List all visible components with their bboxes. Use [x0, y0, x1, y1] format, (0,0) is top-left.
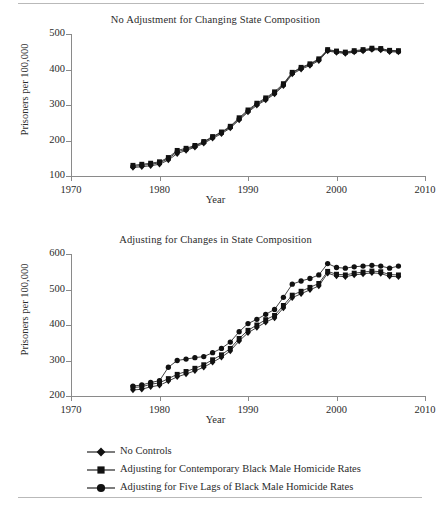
panel-1-y-tick-label: 100 — [19, 169, 65, 180]
series-line-circle — [133, 49, 399, 167]
circle-marker — [316, 272, 321, 277]
diamond-marker — [86, 443, 116, 461]
series-markers-square — [130, 269, 400, 390]
circle-marker — [396, 263, 401, 268]
circle-marker — [236, 329, 241, 334]
circle-marker — [201, 354, 206, 359]
circle-marker — [290, 70, 295, 75]
square-marker — [228, 346, 233, 351]
circle-marker — [86, 479, 116, 497]
circle-marker — [210, 350, 215, 355]
circle-marker — [298, 65, 303, 70]
panel-1-x-tick — [337, 176, 338, 181]
circle-marker — [272, 90, 277, 95]
panel-2-title: Adjusting for Changes in State Compositi… — [0, 234, 431, 245]
circle-marker — [263, 96, 268, 101]
panel-2-y-tick — [66, 361, 71, 362]
circle-marker — [219, 346, 224, 351]
legend-item-five-lags: Adjusting for Five Lags of Black Male Ho… — [86, 479, 431, 497]
circle-marker — [175, 358, 180, 363]
circle-marker — [307, 276, 312, 281]
panel-2-y-tick-label: 300 — [19, 354, 65, 365]
circle-marker — [192, 355, 197, 360]
square-marker — [343, 272, 348, 277]
panel-1-title: No Adjustment for Changing State Composi… — [0, 14, 431, 25]
circle-marker — [334, 49, 339, 54]
series-markers-circle — [130, 46, 401, 169]
panel-2-y-tick — [66, 254, 71, 255]
circle-marker — [192, 144, 197, 149]
square-marker — [299, 289, 304, 294]
series-line-square — [133, 48, 399, 165]
circle-marker — [166, 365, 171, 370]
circle-marker — [272, 307, 277, 312]
circle-marker — [254, 102, 259, 107]
circle-marker — [360, 48, 365, 53]
panel-1-plot-area: 10020030040050019701980199020002010 — [71, 34, 425, 176]
circle-marker — [228, 339, 233, 344]
square-marker — [369, 269, 374, 274]
circle-marker — [387, 266, 392, 271]
circle-marker — [325, 48, 330, 53]
circle-marker — [316, 57, 321, 62]
square-marker — [396, 272, 401, 277]
panel-1-y-tick-label: 500 — [19, 27, 65, 38]
panel-1-x-tick — [160, 176, 161, 181]
chart-legend: No Controls Adjusting for Contemporary B… — [86, 443, 431, 497]
circle-marker — [307, 62, 312, 67]
panel-1-y-tick-label: 400 — [19, 63, 65, 74]
panel-2-y-tick-label: 400 — [19, 318, 65, 329]
legend-item-no-controls: No Controls — [86, 443, 431, 461]
circle-marker — [210, 135, 215, 140]
circle-marker — [157, 160, 162, 165]
panel-2-plot-area: 20030040050060019701980199020002010 — [71, 254, 425, 396]
circle-marker — [298, 278, 303, 283]
series-markers-diamond — [130, 46, 401, 170]
panel-1-x-tick — [71, 176, 72, 181]
panel-1-x-axis-label: Year — [0, 194, 431, 205]
square-marker — [219, 352, 224, 357]
circle-marker — [290, 282, 295, 287]
panel-1-x-tick — [425, 176, 426, 181]
square-marker — [166, 376, 171, 381]
circle-marker — [369, 263, 374, 268]
circle-marker — [378, 263, 383, 268]
square-marker — [237, 336, 242, 341]
panel-2-series-layer — [71, 254, 425, 396]
panel-1-series-layer — [71, 34, 425, 176]
circle-marker — [334, 265, 339, 270]
square-marker — [192, 366, 197, 371]
series-markers-square — [130, 46, 400, 168]
square-marker — [334, 272, 339, 277]
circle-marker — [183, 147, 188, 152]
square-marker — [272, 313, 277, 318]
circle-marker — [148, 162, 153, 167]
legend-label-no-controls: No Controls — [120, 445, 172, 456]
square-marker — [290, 293, 295, 298]
circle-marker — [343, 266, 348, 271]
circle-marker — [343, 50, 348, 55]
circle-marker — [201, 140, 206, 145]
panel-1-y-tick — [66, 70, 71, 71]
circle-marker — [130, 383, 135, 388]
panel-2-x-axis-label: Year — [0, 414, 431, 425]
circle-marker — [378, 47, 383, 52]
circle-marker — [396, 49, 401, 54]
circle-marker — [387, 48, 392, 53]
square-marker — [210, 357, 215, 362]
square-marker — [387, 272, 392, 277]
circle-marker — [139, 382, 144, 387]
chart-panel-adjusted: Adjusting for Changes in State Compositi… — [0, 228, 431, 440]
circle-marker — [245, 108, 250, 113]
panel-2-x-tick — [160, 396, 161, 401]
page-bottom-rule — [18, 497, 422, 498]
square-marker — [378, 269, 383, 274]
circle-marker — [130, 164, 135, 169]
panel-1-y-tick-label: 300 — [19, 98, 65, 109]
series-line-diamond — [133, 273, 399, 390]
square-marker — [352, 271, 357, 276]
legend-label-contemporary: Adjusting for Contemporary Black Male Ho… — [120, 463, 361, 474]
panel-1-y-tick — [66, 34, 71, 35]
circle-marker — [139, 163, 144, 168]
chart-panel-no-adjustment: No Adjustment for Changing State Composi… — [0, 8, 431, 220]
